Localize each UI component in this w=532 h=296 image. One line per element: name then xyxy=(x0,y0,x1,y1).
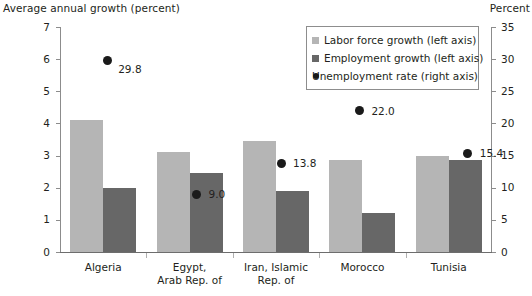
bar-labor-force-growth xyxy=(243,141,276,252)
y-tick-right xyxy=(492,59,496,60)
y-tick-label-right: 0 xyxy=(501,247,531,258)
data-label-unemployment-rate: 29.8 xyxy=(118,63,141,75)
bar-employment-growth xyxy=(190,173,223,252)
y-tick-label-left: 5 xyxy=(24,86,50,97)
legend-item-labor-force[interactable]: Labor force growth (left axis) xyxy=(312,31,473,49)
bar-employment-growth xyxy=(449,160,482,252)
data-point-unemployment-rate xyxy=(277,159,286,168)
x-axis-category-label: Tunisia xyxy=(406,261,492,274)
legend-marker-circle-icon xyxy=(313,73,319,79)
bar-labor-force-growth xyxy=(329,160,362,252)
x-tick xyxy=(319,253,320,258)
y-tick-label-left: 0 xyxy=(24,247,50,258)
bar-employment-growth xyxy=(276,191,309,252)
data-point-unemployment-rate xyxy=(355,106,364,115)
y-tick-label-left: 2 xyxy=(24,182,50,193)
x-tick xyxy=(406,253,407,258)
x-axis-category-label: Morocco xyxy=(319,261,405,274)
data-label-unemployment-rate: 15.4 xyxy=(480,147,503,159)
data-label-unemployment-rate: 13.8 xyxy=(293,157,316,169)
legend: Labor force growth (left axis) Employmen… xyxy=(306,26,479,90)
y-tick-right xyxy=(492,188,496,189)
bar-employment-growth xyxy=(103,188,136,252)
data-point-unemployment-rate xyxy=(103,56,112,65)
bar-labor-force-growth xyxy=(416,156,449,252)
x-axis-category-label: Egypt, Arab Rep. of xyxy=(146,261,232,286)
x-axis-category-label: Algeria xyxy=(60,261,146,274)
legend-swatch-dark-icon xyxy=(312,55,319,62)
left-axis-title: Average annual growth (percent) xyxy=(3,2,180,14)
legend-swatch-light-icon xyxy=(312,37,319,44)
y-tick-label-right: 5 xyxy=(501,214,531,225)
y-tick-label-left: 6 xyxy=(24,54,50,65)
chart-container: Average annual growth (percent) Percent … xyxy=(0,0,532,296)
y-tick-right xyxy=(492,252,496,253)
y-tick-right xyxy=(492,91,496,92)
x-tick xyxy=(233,253,234,258)
legend-item-unemployment[interactable]: Unemployment rate (right axis) xyxy=(312,67,473,85)
x-axis xyxy=(60,252,492,253)
bar-labor-force-growth xyxy=(157,152,190,252)
legend-label-unemployment: Unemployment rate (right axis) xyxy=(312,70,478,82)
y-tick-right xyxy=(492,123,496,124)
y-tick-label-left: 1 xyxy=(24,214,50,225)
y-tick-right xyxy=(492,27,496,28)
right-axis-title: Percent xyxy=(490,2,530,14)
data-point-unemployment-rate xyxy=(463,149,472,158)
x-tick xyxy=(146,253,147,258)
data-label-unemployment-rate: 22.0 xyxy=(371,105,394,117)
y-tick-label-right: 30 xyxy=(501,54,531,65)
y-tick-label-left: 7 xyxy=(24,22,50,33)
y-tick-label-right: 20 xyxy=(501,118,531,129)
legend-label-employment: Employment growth (left axis) xyxy=(324,52,483,64)
y-tick-label-right: 25 xyxy=(501,86,531,97)
y-tick-label-left: 3 xyxy=(24,150,50,161)
y-tick-label-right: 10 xyxy=(501,182,531,193)
y-tick-label-left: 4 xyxy=(24,118,50,129)
bar-employment-growth xyxy=(362,213,395,252)
y-tick-label-right: 15 xyxy=(501,150,531,161)
y-tick-label-right: 35 xyxy=(501,22,531,33)
y-tick-left xyxy=(56,252,60,253)
data-label-unemployment-rate: 9.0 xyxy=(209,188,226,200)
legend-label-labor-force: Labor force growth (left axis) xyxy=(324,34,476,46)
data-point-unemployment-rate xyxy=(192,190,201,199)
legend-item-employment[interactable]: Employment growth (left axis) xyxy=(312,49,473,67)
x-axis-category-label: Iran, Islamic Rep. of xyxy=(233,261,319,286)
bar-labor-force-growth xyxy=(70,120,103,252)
y-tick-right xyxy=(492,220,496,221)
